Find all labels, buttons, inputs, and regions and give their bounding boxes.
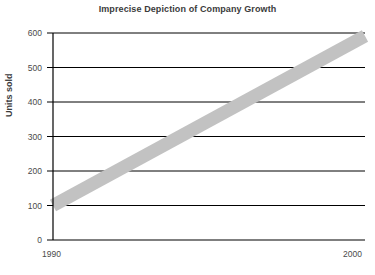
plot-area — [0, 0, 375, 275]
y-tick-label-0: 0 — [12, 236, 42, 245]
y-tick-label-500: 500 — [12, 64, 42, 73]
y-tick-label-200: 200 — [12, 167, 42, 176]
x-tick-label-1990: 1990 — [42, 250, 61, 259]
y-tick-label-300: 300 — [12, 133, 42, 142]
x-tick-label-2000: 2000 — [343, 250, 362, 259]
chart-container: Imprecise Depiction of Company Growth Un… — [0, 0, 375, 275]
y-tick-label-400: 400 — [12, 98, 42, 107]
y-tick-label-600: 600 — [12, 29, 42, 38]
y-axis-ticks — [47, 33, 53, 240]
data-series-line — [53, 36, 365, 206]
y-tick-label-100: 100 — [12, 202, 42, 211]
